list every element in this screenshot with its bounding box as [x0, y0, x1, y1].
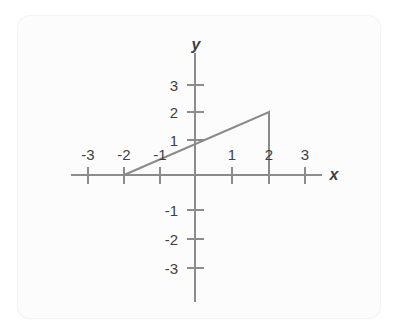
y-tick-label-neg3: -3: [165, 260, 178, 277]
figure-root: -3 -2 -1 1 2 3 3 2 1 -1 -2 -3 x y: [0, 0, 399, 333]
x-tick-label-pos1: 1: [228, 146, 236, 163]
x-axis-label: x: [329, 166, 340, 183]
coordinate-plane-plot: -3 -2 -1 1 2 3 3 2 1 -1 -2 -3 x y: [0, 0, 399, 333]
y-tick-label-neg1: -1: [165, 202, 178, 219]
x-tick-label-pos2: 2: [265, 146, 273, 163]
y-tick-label-pos3: 3: [170, 77, 178, 94]
x-tick-label-neg1: -1: [153, 146, 166, 163]
y-tick-label-pos1: 1: [170, 132, 178, 149]
y-tick-labels: 3 2 1 -1 -2 -3: [165, 77, 178, 277]
triangle-shape: [124, 112, 269, 175]
y-tick-label-neg2: -2: [165, 231, 178, 248]
y-axis-label: y: [191, 36, 202, 53]
x-tick-label-neg3: -3: [81, 146, 94, 163]
y-tick-label-pos2: 2: [170, 104, 178, 121]
triangle-polygon: [124, 112, 269, 175]
x-tick-label-neg2: -2: [117, 146, 130, 163]
x-tick-label-pos3: 3: [301, 146, 309, 163]
axis-group: [71, 53, 322, 302]
